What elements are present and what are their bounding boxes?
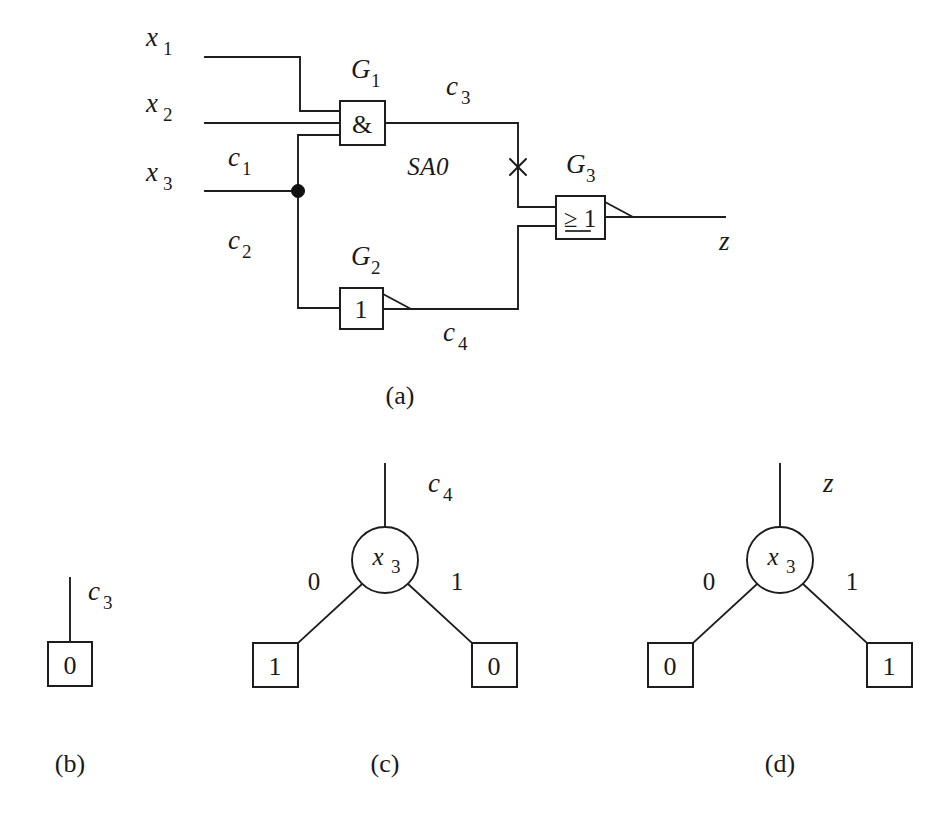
bdd-d-edge-high-label: 1: [846, 568, 859, 595]
net-label-c3-base: c: [446, 71, 458, 101]
bdd-d-root-label-sub: 3: [786, 556, 796, 577]
net-label-c1-base: c: [228, 142, 240, 172]
bdd-c-net-label-base: c: [428, 468, 440, 498]
wire-c2: [298, 191, 340, 308]
gate-G1-symbol: &: [352, 110, 372, 139]
gate-G1-label-sub: 1: [371, 70, 381, 91]
caption-b: (b): [55, 749, 85, 778]
fault-marker-sa0: SA0: [407, 153, 526, 180]
output-label-z: z: [718, 226, 730, 256]
bdd-c-net-label: c 4: [428, 468, 453, 505]
bdd-c-edge-high-label: 1: [451, 568, 464, 595]
wire-c1: [298, 135, 340, 191]
bdd-b-terminal-value: 0: [64, 651, 77, 680]
input-label-x2-base: x: [145, 88, 158, 118]
input-label-x3: x 3: [145, 157, 173, 194]
fanout-junction-dot: [292, 185, 305, 198]
wire-x1: [205, 57, 340, 111]
net-label-c3: c 3: [446, 71, 471, 108]
fault-label: SA0: [407, 153, 449, 180]
bdd-d-edge-low-label: 0: [703, 568, 716, 595]
gate-G3-label-sub: 3: [586, 165, 596, 186]
bdd-d-terminal-low-value: 0: [664, 652, 677, 681]
net-label-c4: c 4: [443, 317, 468, 354]
caption-d: (d): [765, 749, 795, 778]
bdd-c-net-label-sub: 4: [443, 484, 453, 505]
gate-G3-label-base: G: [566, 149, 586, 179]
input-label-x2-sub: 2: [163, 104, 173, 125]
net-label-c4-sub: 4: [458, 333, 468, 354]
bdd-b-net-label-base: c: [88, 576, 100, 606]
bdd-c-panel: c 4 x 3 0 1 1 0 (c): [253, 464, 517, 778]
input-label-x3-base: x: [145, 157, 158, 187]
net-label-c3-sub: 3: [461, 87, 471, 108]
net-label-c2-base: c: [228, 225, 240, 255]
input-label-x1-base: x: [145, 22, 158, 52]
bdd-d-terminal-high-value: 1: [883, 652, 896, 681]
circuit-panel: x 1 x 2 x 3 & G 1 c 3: [145, 22, 730, 410]
input-label-x1-sub: 1: [163, 38, 173, 59]
gate-G3-label: G 3: [566, 149, 596, 186]
input-label-x2: x 2: [145, 88, 173, 125]
net-label-c1-sub: 1: [242, 158, 252, 179]
bdd-b-panel: c 3 0 (b): [48, 576, 113, 778]
bdd-b-net-label-sub: 3: [103, 592, 113, 613]
bdd-c-edge-low-label: 0: [308, 568, 321, 595]
gate-G1-label: G 1: [351, 54, 381, 91]
gate-G2-symbol: 1: [355, 295, 368, 324]
bdd-c-root-label-base: x: [371, 543, 383, 570]
net-label-c2-sub: 2: [242, 241, 252, 262]
bdd-c-terminal-high-value: 0: [488, 652, 501, 681]
gate-G1-label-base: G: [351, 54, 371, 84]
figure-root: x 1 x 2 x 3 & G 1 c 3: [0, 0, 944, 827]
gate-G2-label-base: G: [351, 241, 371, 271]
bdd-d-net-label: z: [822, 468, 834, 498]
gate-G3-inversion-wedge-icon: [605, 202, 633, 217]
bdd-c-terminal-low-value: 1: [269, 652, 282, 681]
net-label-c1: c 1: [228, 142, 252, 179]
net-label-c4-base: c: [443, 317, 455, 347]
net-label-c2: c 2: [228, 225, 252, 262]
bdd-b-net-label: c 3: [88, 576, 113, 613]
caption-c: (c): [371, 749, 400, 778]
input-label-x1: x 1: [145, 22, 173, 59]
bdd-d-panel: z x 3 0 1 0 1 (d): [648, 464, 912, 778]
bdd-c-root-label-sub: 3: [391, 556, 401, 577]
caption-a: (a): [386, 381, 415, 410]
gate-G2-label-sub: 2: [371, 257, 381, 278]
gate-G3-symbol: ≥ 1: [564, 205, 596, 232]
wire-c4: [411, 226, 556, 309]
gate-G2-inversion-wedge-icon: [383, 294, 411, 309]
figure-canvas: x 1 x 2 x 3 & G 1 c 3: [0, 0, 944, 827]
bdd-d-root-label-base: x: [766, 543, 778, 570]
gate-G2-label: G 2: [351, 241, 381, 278]
input-label-x3-sub: 3: [163, 173, 173, 194]
